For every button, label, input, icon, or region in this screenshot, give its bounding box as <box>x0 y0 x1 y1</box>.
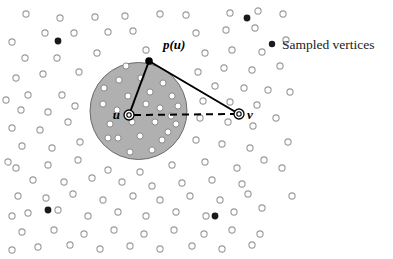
unsampled-vertex-marker <box>229 47 235 53</box>
unsampled-vertex-marker <box>15 193 21 199</box>
unsampled-vertex-marker <box>157 246 163 252</box>
unsampled-vertex-marker <box>212 83 218 89</box>
unsampled-vertex-marker-in-disk <box>173 121 179 127</box>
unsampled-vertex-marker <box>23 11 29 17</box>
unsampled-vertex-marker <box>76 69 82 75</box>
unsampled-vertex-marker <box>265 87 271 93</box>
unsampled-vertex-marker <box>105 29 111 35</box>
unsampled-vertex-marker <box>143 47 149 53</box>
unsampled-vertex-marker <box>54 55 60 61</box>
unsampled-vertex-marker <box>223 27 229 33</box>
unsampled-vertex-marker <box>249 67 255 73</box>
unsampled-vertex-marker-in-disk <box>116 77 122 83</box>
unsampled-vertex-marker <box>111 227 117 233</box>
unsampled-vertex-marker <box>143 213 149 219</box>
unsampled-vertex-marker <box>49 145 55 151</box>
unsampled-vertex-marker <box>229 227 235 233</box>
unsampled-vertex-marker <box>254 102 260 108</box>
unsampled-vertex-marker <box>100 197 106 203</box>
unsampled-vertex-marker <box>227 99 233 105</box>
unsampled-vertex-marker <box>77 139 83 145</box>
unsampled-vertex-marker <box>187 193 193 199</box>
unsampled-vertex-marker <box>157 11 163 17</box>
unsampled-vertex-marker <box>94 50 100 56</box>
unsampled-vertex-marker <box>40 71 46 77</box>
unsampled-vertex-marker <box>259 49 265 55</box>
unsampled-vertex-marker <box>179 180 185 186</box>
unsampled-vertex-marker <box>13 165 19 171</box>
unsampled-vertex-marker-in-disk <box>157 105 163 111</box>
label-p-of-u: p(u) <box>162 37 185 52</box>
unsampled-vertex-marker <box>30 177 36 183</box>
unsampled-vertex-marker <box>18 107 24 113</box>
unsampled-vertex-marker <box>227 10 233 16</box>
unsampled-vertex-marker-in-disk <box>149 147 155 153</box>
vertex-u-inner-dot <box>127 113 131 117</box>
unsampled-vertex-marker <box>234 165 240 171</box>
unsampled-vertex-marker <box>157 197 163 203</box>
unsampled-vertex-marker-in-disk <box>125 93 131 99</box>
unsampled-vertex-marker <box>92 14 98 20</box>
unsampled-vertex-marker-in-disk <box>147 89 153 95</box>
unsampled-vertex-marker <box>9 125 15 131</box>
unsampled-vertex-marker <box>149 183 155 189</box>
unsampled-vertex-marker-in-disk <box>137 133 143 139</box>
sampled-vertex-marker <box>45 207 52 214</box>
unsampled-vertex-marker <box>195 69 201 75</box>
vertex-v-inner-dot <box>237 112 241 116</box>
unsampled-vertex-marker <box>221 65 227 71</box>
sampled-vertex-marker <box>244 15 251 22</box>
unsampled-vertex-marker <box>137 169 143 175</box>
unsampled-vertex-marker <box>183 12 189 18</box>
unsampled-vertex-marker <box>197 115 203 121</box>
unsampled-vertex-marker <box>141 231 147 237</box>
unsampled-vertex-marker <box>279 165 285 171</box>
unsampled-vertex-marker <box>239 181 245 187</box>
unsampled-vertex-marker <box>51 227 57 233</box>
unsampled-vertex-marker <box>19 143 25 149</box>
unsampled-vertex-marker <box>245 191 251 197</box>
unsampled-vertex-marker <box>115 209 121 215</box>
unsampled-vertex-marker <box>59 92 65 98</box>
unsampled-vertex-marker <box>97 246 103 252</box>
unsampled-vertex-marker <box>273 115 279 121</box>
unsampled-vertex-marker <box>122 13 128 19</box>
label-v: v <box>247 107 253 122</box>
unsampled-vertex-marker <box>130 193 136 199</box>
figure-container: p(u) u v Sampled vertices <box>0 0 393 259</box>
unsampled-vertex-marker <box>89 175 95 181</box>
unsampled-vertex-marker <box>203 213 209 219</box>
unsampled-vertex-marker <box>189 243 195 249</box>
sampled-vertex-marker <box>55 38 62 45</box>
unsampled-vertex-marker-in-disk <box>105 135 111 141</box>
unsampled-vertex-marker <box>250 123 256 129</box>
unsampled-vertex-marker <box>193 30 199 36</box>
unsampled-vertex-marker <box>119 179 125 185</box>
unsampled-vertex-marker <box>25 210 31 216</box>
unsampled-vertex-marker <box>202 50 208 56</box>
unsampled-vertex-marker <box>42 30 48 36</box>
vertex-u-node <box>124 110 134 120</box>
graph-sampling-diagram: p(u) u v Sampled vertices <box>0 0 393 259</box>
unsampled-vertex-marker <box>70 191 76 197</box>
unsampled-vertex-marker-in-disk <box>159 137 165 143</box>
unsampled-vertex-marker-in-disk <box>165 129 171 135</box>
unsampled-vertex-marker <box>43 195 49 201</box>
filled-dot-marker-icon <box>269 41 275 47</box>
sampled-vertex-marker <box>212 213 219 220</box>
unsampled-vertex-marker <box>255 8 261 14</box>
unsampled-vertex-marker <box>127 243 133 249</box>
unsampled-vertex-marker <box>105 167 111 173</box>
unsampled-vertex-marker <box>171 227 177 233</box>
unsampled-vertex-marker <box>249 242 255 248</box>
unsampled-vertex-marker <box>130 28 136 34</box>
unsampled-vertex-marker-in-disk <box>169 93 175 99</box>
unsampled-vertex-marker <box>67 242 73 248</box>
unsampled-vertex-marker <box>71 30 77 36</box>
vertex-v-node <box>234 109 244 119</box>
unsampled-vertex-marker <box>35 244 41 250</box>
unsampled-vertex-marker <box>261 157 267 163</box>
unsampled-vertex-marker-in-disk <box>115 135 121 141</box>
vertex-pu-node <box>145 57 153 65</box>
unsampled-vertex-marker <box>209 177 215 183</box>
